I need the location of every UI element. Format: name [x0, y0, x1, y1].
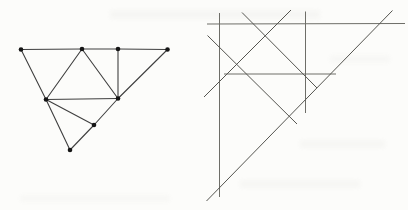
graph-edge	[46, 100, 94, 126]
graph-edge	[118, 49, 168, 50]
graph-edge	[21, 50, 46, 100]
graph-edge	[94, 99, 118, 126]
triangulated-graph-figure	[19, 47, 170, 153]
graph-vertex	[116, 96, 121, 101]
graph-edge	[70, 125, 94, 150]
graph-vertex	[116, 47, 121, 52]
graph-vertex	[92, 123, 97, 128]
graph-vertex	[19, 47, 24, 52]
graph-vertex	[165, 47, 170, 52]
graph-vertex	[80, 47, 85, 52]
arrangement-line-diagonal-up-short	[204, 10, 291, 97]
line-arrangement-figure	[204, 10, 405, 201]
graph-edge	[46, 49, 82, 100]
graph-vertex	[68, 148, 73, 153]
graph-vertex	[44, 97, 49, 102]
graph-edge	[82, 49, 118, 99]
graph-edge	[118, 50, 168, 99]
graph-edge	[21, 49, 82, 50]
diagram-canvas	[0, 0, 408, 210]
scanned-figure-page	[0, 0, 408, 210]
graph-edge	[46, 100, 70, 151]
graph-edge	[46, 99, 118, 100]
arrangement-line-diagonal-up-long	[207, 11, 393, 202]
